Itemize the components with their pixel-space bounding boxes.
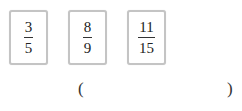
fraction: 8 9 <box>84 20 92 56</box>
numerator: 11 <box>139 20 153 37</box>
denominator: 15 <box>139 38 154 56</box>
fraction: 11 15 <box>139 20 154 56</box>
denominator: 9 <box>84 38 92 56</box>
answer-close-paren: ) <box>227 79 233 99</box>
fraction-card-3: 11 15 <box>127 10 166 65</box>
numerator: 8 <box>84 20 92 37</box>
fraction-card-1: 3 5 <box>9 10 48 65</box>
answer-open-paren: ( <box>78 79 84 99</box>
numerator: 3 <box>25 20 33 37</box>
answer-blank[interactable] <box>88 80 224 100</box>
denominator: 5 <box>25 38 33 56</box>
fraction: 3 5 <box>25 20 33 56</box>
fraction-card-2: 8 9 <box>68 10 107 65</box>
